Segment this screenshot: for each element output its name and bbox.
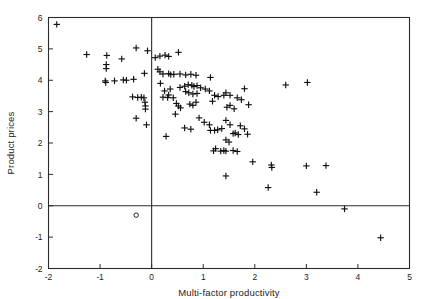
x-tick-label: 1 [201, 272, 206, 282]
x-tick-label: 4 [356, 272, 361, 282]
chart-canvas: -2-1012345 -2-10123456 Multi-factor prod… [0, 0, 425, 299]
y-tick-label: 3 [38, 107, 43, 117]
y-tick-label: -1 [35, 232, 43, 242]
x-tick-label: 0 [149, 272, 154, 282]
y-tick-label: 4 [38, 75, 43, 85]
y-tick-label: 5 [38, 44, 43, 54]
x-tick-label: -2 [45, 272, 53, 282]
y-tick-label: -2 [35, 264, 43, 274]
x-tick-label: 2 [252, 272, 257, 282]
scatter-plot-figure: -2-1012345 -2-10123456 Multi-factor prod… [0, 0, 425, 299]
y-tick-label: 0 [38, 201, 43, 211]
y-tick-label: 1 [38, 170, 43, 180]
y-tick-label: 2 [38, 138, 43, 148]
x-axis-title: Multi-factor productivity [178, 287, 280, 298]
x-tick-label: 5 [407, 272, 412, 282]
chart-background [0, 0, 425, 299]
y-tick-label: 6 [38, 13, 43, 23]
x-tick-label: -1 [96, 272, 104, 282]
y-axis-title: Product prices [5, 111, 16, 174]
x-tick-label: 3 [304, 272, 309, 282]
